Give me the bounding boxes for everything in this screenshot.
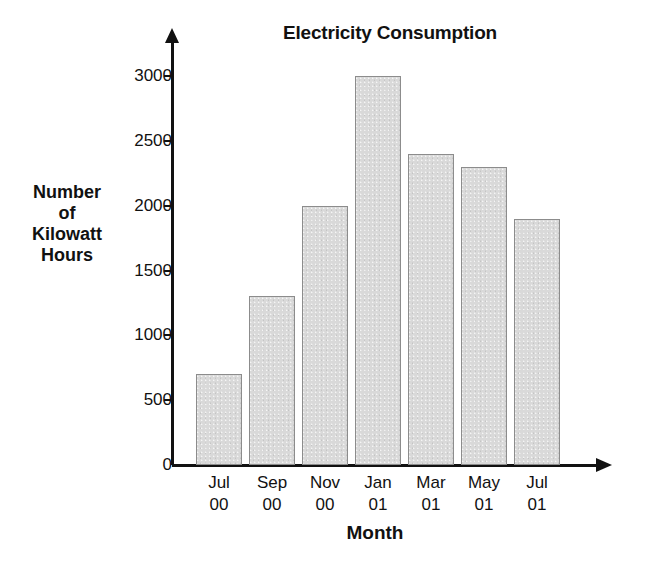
x-axis-tick-year-1: 00 bbox=[242, 494, 302, 516]
y-axis-tick-label-2000: 2000 bbox=[110, 196, 172, 216]
x-axis-tick-year-6: 01 bbox=[507, 494, 567, 516]
x-axis-tick-label-1: Sep00 bbox=[242, 472, 302, 516]
bar-nov-00 bbox=[302, 206, 348, 465]
y-axis-tick-label-1500: 1500 bbox=[110, 261, 172, 281]
y-axis-tick-label-0: 0 bbox=[110, 455, 172, 475]
x-axis-tick-label-6: Jul01 bbox=[507, 472, 567, 516]
x-axis-tick-label-2: Nov00 bbox=[295, 472, 355, 516]
bar-mar-01 bbox=[408, 154, 454, 465]
x-axis-tick-label-4: Mar01 bbox=[401, 472, 461, 516]
x-axis-tick-year-3: 01 bbox=[348, 494, 408, 516]
x-axis-tick-year-5: 01 bbox=[454, 494, 514, 516]
bar-jul-00 bbox=[196, 374, 242, 465]
x-axis-tick-year-4: 01 bbox=[401, 494, 461, 516]
x-axis-tick-month-4: Mar bbox=[401, 472, 461, 494]
y-axis-tick-label-500: 500 bbox=[110, 390, 172, 410]
x-axis-tick-month-2: Nov bbox=[295, 472, 355, 494]
y-axis-tick-label-1000: 1000 bbox=[110, 325, 172, 345]
x-axis-tick-label-3: Jan01 bbox=[348, 472, 408, 516]
x-axis-tick-year-0: 00 bbox=[189, 494, 249, 516]
x-axis-tick-month-0: Jul bbox=[189, 472, 249, 494]
x-axis-tick-month-1: Sep bbox=[242, 472, 302, 494]
x-axis-tick-label-0: Jul00 bbox=[189, 472, 249, 516]
bar-jan-01 bbox=[355, 76, 401, 465]
y-axis-tick-labels: 050010001500200025003000 bbox=[110, 0, 172, 562]
x-axis-tick-month-5: May bbox=[454, 472, 514, 494]
bar-may-01 bbox=[461, 167, 507, 465]
x-axis-tick-month-6: Jul bbox=[507, 472, 567, 494]
y-axis-tick-label-2500: 2500 bbox=[110, 131, 172, 151]
x-axis-tick-month-3: Jan bbox=[348, 472, 408, 494]
electricity-consumption-bar-chart: Electricity Consumption Number of Kilowa… bbox=[0, 0, 650, 562]
x-axis-tick-year-2: 00 bbox=[295, 494, 355, 516]
bar-jul-01 bbox=[514, 219, 560, 465]
y-axis-tick-label-3000: 3000 bbox=[110, 66, 172, 86]
x-axis-tick-label-5: May01 bbox=[454, 472, 514, 516]
bar-sep-00 bbox=[249, 296, 295, 465]
